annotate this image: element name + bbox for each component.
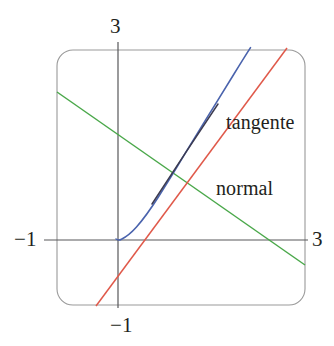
y-axis-min-tick-label: −1 [14, 229, 37, 250]
x-axis-max-tick-label: 3 [312, 229, 323, 250]
plot-canvas [0, 0, 334, 346]
x-axis-min-tick-label: −1 [110, 315, 133, 336]
normal-line-label: normal [216, 178, 273, 198]
plot-figure: 3 −1 3 −1 tangente normal [0, 0, 334, 346]
y-axis-max-tick-label: 3 [110, 16, 121, 37]
tangent-line-label: tangente [226, 112, 295, 132]
function-curve [116, 48, 251, 240]
